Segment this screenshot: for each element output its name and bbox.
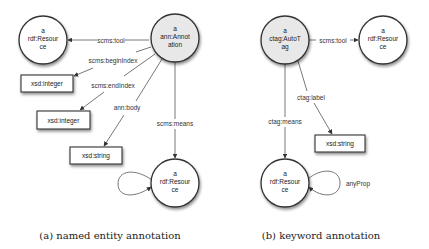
edge-ann-body: ann:body bbox=[104, 59, 162, 146]
edge-label-ctag-means: ctag:means bbox=[268, 118, 302, 126]
node-tool-resource-b-line2: rdf:Resour bbox=[368, 35, 399, 42]
edge-label-ann-body: ann:body bbox=[114, 104, 141, 112]
node-tool-resource-b-line3: ce bbox=[380, 43, 387, 50]
edge-label-scms-means: scms:means bbox=[157, 120, 194, 127]
node-annotation-line1: a bbox=[173, 25, 177, 32]
node-tool-resource-line3: ce bbox=[40, 43, 47, 50]
edge-self-loop bbox=[118, 172, 152, 195]
diagram-b: scms:tool ctag:label ctag:means anyProp … bbox=[261, 16, 407, 241]
edge-label-scms-endindex: scms:endIndex bbox=[91, 82, 135, 89]
node-means-resource-line3: ce bbox=[172, 186, 179, 193]
edge-label-scms-beginindex: scms:beginIndex bbox=[89, 57, 139, 65]
node-annotation-line3: ation bbox=[168, 41, 182, 48]
edge-anyprop-loop: anyProp bbox=[308, 171, 370, 195]
node-annotation-line2: ann:Annot bbox=[160, 33, 190, 40]
node-begin-integer-label: xsd:integer bbox=[31, 80, 64, 88]
node-means-resource-b-line2: rdf:Resour bbox=[270, 178, 301, 185]
rdf-diagrams: scms:tool scms:beginIndex scms:endIndex … bbox=[0, 0, 429, 249]
edge-scms-tool: scms:tool bbox=[68, 37, 149, 44]
node-tool-resource-line1: a bbox=[41, 27, 45, 34]
edge-label-anyprop: anyProp bbox=[346, 180, 371, 188]
edge-scms-tool-b: scms:tool bbox=[309, 37, 358, 44]
node-means-resource-line1: a bbox=[173, 170, 177, 177]
caption-a: (a) named entity annotation bbox=[39, 230, 181, 241]
edge-scms-beginindex: scms:beginIndex bbox=[74, 47, 151, 76]
edge-ctag-means: ctag:means bbox=[268, 64, 302, 158]
node-label-string-label: xsd:string bbox=[326, 140, 354, 148]
edge-label-scms-tool: scms:tool bbox=[97, 37, 125, 44]
diagram-a: scms:tool scms:beginIndex scms:endIndex … bbox=[19, 14, 199, 241]
node-autotag-line1: a bbox=[283, 27, 287, 34]
node-autotag-line3: ag bbox=[281, 43, 289, 51]
node-end-integer-label: xsd:integer bbox=[48, 117, 81, 125]
node-tool-resource-line2: rdf:Resour bbox=[28, 35, 59, 42]
node-means-resource-line2: rdf:Resour bbox=[160, 178, 191, 185]
node-means-resource-b-line3: ce bbox=[282, 186, 289, 193]
edge-ctag-label: ctag:label bbox=[297, 61, 332, 134]
edge-label-scms-tool-b: scms:tool bbox=[319, 37, 347, 44]
edge-label-ctag-label: ctag:label bbox=[297, 94, 325, 102]
node-means-resource-b-line1: a bbox=[283, 170, 287, 177]
node-body-string-label: xsd:string bbox=[82, 152, 110, 160]
node-tool-resource-b-line1: a bbox=[381, 27, 385, 34]
caption-b: (b) keyword annotation bbox=[262, 230, 381, 241]
edge-scms-means: scms:means bbox=[157, 62, 194, 158]
node-autotag-line2: ctag:AutoT bbox=[269, 35, 300, 43]
